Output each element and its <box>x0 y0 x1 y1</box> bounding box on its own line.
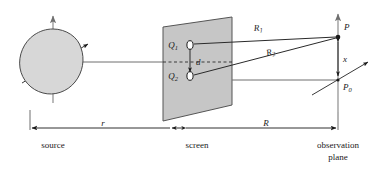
ray-R2-label: R2 <box>264 46 277 59</box>
dimension-r-label: r <box>101 118 105 128</box>
point-P0-label: P0 <box>342 82 353 93</box>
dimension-R-label: R <box>262 118 269 128</box>
caption-group: source screen observation plane <box>41 140 359 162</box>
observation-group: x P P0 <box>232 14 368 112</box>
screen-caption: screen <box>186 140 209 150</box>
observation-caption-line1: observation <box>317 140 359 150</box>
optics-diagram: Q1 Q2 d R1 R2 x P P0 <box>0 0 380 170</box>
observation-depth-axis <box>312 62 368 95</box>
point-P0 <box>336 78 339 81</box>
slit-separation-label: d <box>196 57 201 67</box>
screen-plane <box>163 17 232 121</box>
observation-caption-line2: plane <box>328 152 348 162</box>
source-blob <box>20 29 83 94</box>
point-P-label: P <box>343 22 350 32</box>
slit-1 <box>187 41 193 50</box>
slit-2 <box>187 72 193 81</box>
source-caption: source <box>41 140 65 150</box>
height-x-label: x <box>342 54 347 64</box>
ray-R1-label: R1 <box>252 22 262 34</box>
figure-canvas: Q1 Q2 d R1 R2 x P P0 <box>0 0 380 170</box>
screen-group: Q1 Q2 d <box>163 17 232 121</box>
point-P <box>336 35 341 40</box>
